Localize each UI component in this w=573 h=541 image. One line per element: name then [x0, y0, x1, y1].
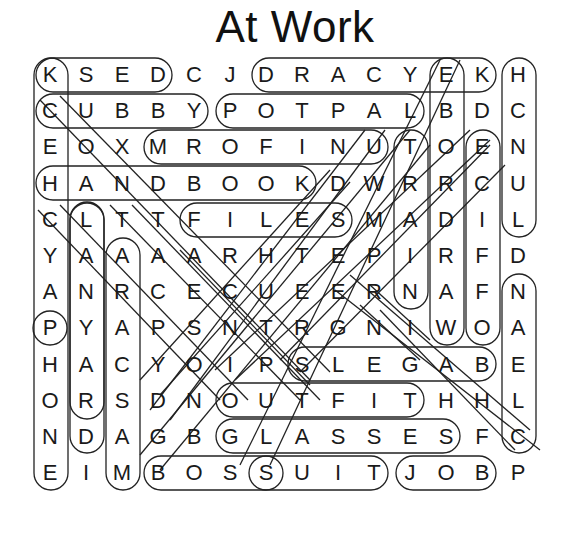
grid-cell[interactable]: A [428, 274, 464, 310]
grid-cell[interactable]: G [140, 419, 176, 455]
grid-cell[interactable]: A [104, 238, 140, 274]
grid-cell[interactable]: B [176, 419, 212, 455]
grid-cell[interactable]: F [464, 274, 500, 310]
grid-cell[interactable]: A [104, 419, 140, 455]
grid-cell[interactable]: A [320, 57, 356, 93]
grid-cell[interactable]: I [392, 238, 428, 274]
grid-cell[interactable]: K [464, 57, 500, 93]
grid-cell[interactable]: W [428, 310, 464, 346]
grid-cell[interactable]: D [140, 57, 176, 93]
grid-cell[interactable]: I [212, 347, 248, 383]
grid-cell[interactable]: H [32, 166, 68, 202]
grid-cell[interactable]: E [32, 129, 68, 165]
grid-cell[interactable]: T [248, 310, 284, 346]
grid-cell[interactable]: P [140, 310, 176, 346]
grid-cell[interactable]: O [428, 129, 464, 165]
grid-cell[interactable]: W [356, 166, 392, 202]
grid-cell[interactable]: D [500, 238, 536, 274]
grid-cell[interactable]: G [392, 347, 428, 383]
grid-cell[interactable]: G [212, 419, 248, 455]
grid-cell[interactable]: Y [392, 57, 428, 93]
grid-cell[interactable]: M [140, 129, 176, 165]
grid-cell[interactable]: B [104, 93, 140, 129]
grid-cell[interactable]: F [464, 238, 500, 274]
grid-cell[interactable]: I [464, 202, 500, 238]
grid-cell[interactable]: L [500, 383, 536, 419]
grid-cell[interactable]: N [68, 274, 104, 310]
grid-cell[interactable]: R [212, 238, 248, 274]
grid-cell[interactable]: D [464, 93, 500, 129]
grid-cell[interactable]: O [176, 455, 212, 491]
grid-cell[interactable]: S [212, 455, 248, 491]
grid-cell[interactable]: P [320, 93, 356, 129]
grid-cell[interactable]: R [104, 274, 140, 310]
grid-cell[interactable]: I [320, 455, 356, 491]
grid-cell[interactable]: F [176, 202, 212, 238]
grid-cell[interactable]: L [248, 419, 284, 455]
grid-cell[interactable]: O [68, 129, 104, 165]
grid-cell[interactable]: R [284, 310, 320, 346]
grid-cell[interactable]: O [248, 166, 284, 202]
grid-cell[interactable]: U [248, 383, 284, 419]
grid-cell[interactable]: N [32, 419, 68, 455]
grid-cell[interactable]: D [140, 383, 176, 419]
grid-cell[interactable]: N [104, 166, 140, 202]
grid-cell[interactable]: F [248, 129, 284, 165]
grid-cell[interactable]: Y [140, 347, 176, 383]
grid-cell[interactable]: N [500, 274, 536, 310]
grid-cell[interactable]: I [284, 129, 320, 165]
grid-cell[interactable]: T [392, 129, 428, 165]
grid-cell[interactable]: M [104, 455, 140, 491]
grid-cell[interactable]: J [392, 455, 428, 491]
grid-cell[interactable]: S [320, 202, 356, 238]
grid-cell[interactable]: L [392, 93, 428, 129]
grid-cell[interactable]: Y [32, 238, 68, 274]
grid-cell[interactable]: R [392, 166, 428, 202]
grid-cell[interactable]: C [212, 274, 248, 310]
grid-cell[interactable]: Y [68, 310, 104, 346]
grid-cell[interactable]: D [140, 166, 176, 202]
grid-cell[interactable]: A [428, 347, 464, 383]
grid-cell[interactable]: Y [176, 93, 212, 129]
grid-cell[interactable]: E [176, 274, 212, 310]
grid-cell[interactable]: U [356, 129, 392, 165]
grid-cell[interactable]: R [356, 274, 392, 310]
grid-cell[interactable]: B [176, 166, 212, 202]
grid-cell[interactable]: I [68, 455, 104, 491]
grid-cell[interactable]: R [428, 166, 464, 202]
grid-cell[interactable]: C [176, 57, 212, 93]
grid-cell[interactable]: H [32, 347, 68, 383]
grid-cell[interactable]: C [140, 274, 176, 310]
grid-cell[interactable]: O [248, 93, 284, 129]
grid-cell[interactable]: T [284, 93, 320, 129]
grid-cell[interactable]: E [428, 57, 464, 93]
grid-cell[interactable]: E [284, 274, 320, 310]
grid-cell[interactable]: P [356, 238, 392, 274]
grid-cell[interactable]: O [464, 310, 500, 346]
grid-cell[interactable]: B [464, 347, 500, 383]
grid-cell[interactable]: S [68, 57, 104, 93]
grid-cell[interactable]: S [104, 383, 140, 419]
grid-cell[interactable]: C [356, 57, 392, 93]
grid-cell[interactable]: L [248, 202, 284, 238]
grid-cell[interactable]: O [212, 166, 248, 202]
grid-cell[interactable]: U [248, 274, 284, 310]
grid-cell[interactable]: F [320, 383, 356, 419]
grid-cell[interactable]: J [212, 57, 248, 93]
grid-cell[interactable]: E [320, 238, 356, 274]
grid-cell[interactable]: X [104, 129, 140, 165]
grid-cell[interactable]: T [356, 455, 392, 491]
grid-cell[interactable]: T [284, 238, 320, 274]
grid-cell[interactable]: R [284, 57, 320, 93]
grid-cell[interactable]: C [104, 347, 140, 383]
grid-cell[interactable]: A [392, 202, 428, 238]
grid-cell[interactable]: N [392, 274, 428, 310]
grid-cell[interactable]: S [356, 419, 392, 455]
grid-cell[interactable]: F [464, 419, 500, 455]
grid-cell[interactable]: C [464, 166, 500, 202]
grid-cell[interactable]: N [500, 129, 536, 165]
grid-cell[interactable]: P [248, 347, 284, 383]
grid-cell[interactable]: K [32, 57, 68, 93]
grid-cell[interactable]: D [68, 419, 104, 455]
grid-cell[interactable]: U [500, 166, 536, 202]
